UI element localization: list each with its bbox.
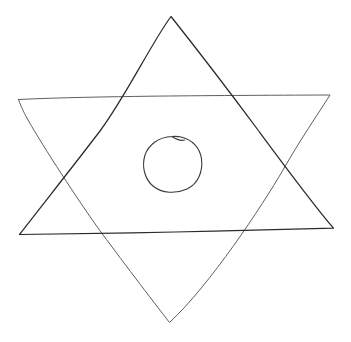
sketch-canvas <box>0 0 351 342</box>
hexagram-sketch-svg <box>0 0 351 342</box>
paper-background <box>0 0 351 342</box>
